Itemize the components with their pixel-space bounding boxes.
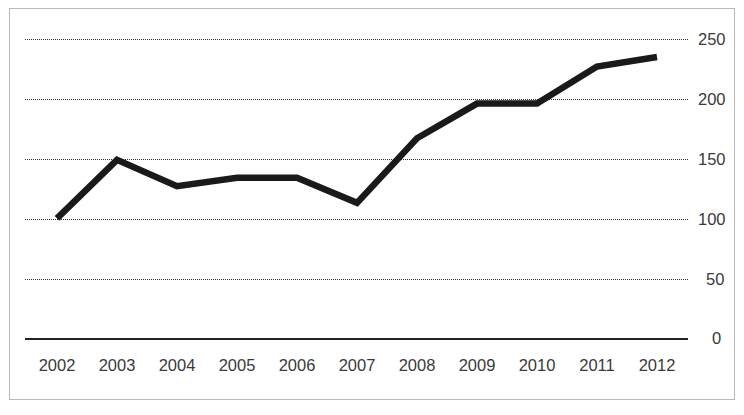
- series-line-path: [57, 57, 657, 218]
- series-svg: [0, 0, 744, 415]
- line-chart-figure: 250 200 150 100 50 0 2002 2003 2004 2005…: [0, 0, 744, 415]
- plot-area: 250 200 150 100 50 0 2002 2003 2004 2005…: [0, 0, 744, 415]
